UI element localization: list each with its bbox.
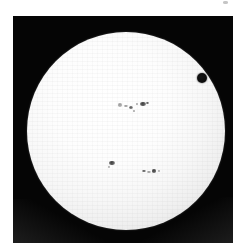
sunspot	[146, 102, 149, 105]
scan-artifact-speck	[223, 1, 228, 4]
sky-background-frame	[13, 16, 233, 243]
sunspot	[129, 106, 133, 109]
photosphere-granulation-texture	[27, 32, 225, 230]
sunspot	[142, 170, 146, 172]
sunspot	[152, 169, 157, 172]
sunspot	[140, 102, 145, 106]
solar-disk	[27, 32, 225, 230]
sunspot	[136, 103, 139, 105]
sunspot	[133, 110, 135, 112]
sunspot	[108, 166, 111, 168]
sunspot	[109, 161, 115, 166]
solar-photograph	[0, 0, 248, 246]
sunspot	[118, 103, 123, 107]
sunspot	[147, 171, 150, 173]
sunspot	[124, 105, 127, 108]
sunspot	[158, 170, 161, 172]
transiting-planet-silhouette	[197, 73, 207, 83]
